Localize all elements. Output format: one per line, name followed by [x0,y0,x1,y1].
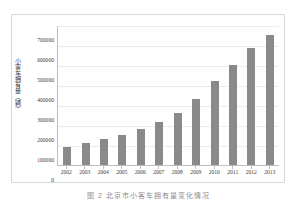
x-axis-tick-labels: 2002200320042005200620072008200920102011… [57,169,279,179]
bar-slot [224,26,242,165]
x-axis-tick-label: 2012 [242,169,261,179]
bar-slot [58,26,76,165]
y-axis-tick-label: 100000 [37,157,54,163]
bar[interactable] [174,113,182,165]
y-axis-tick-label: 400000 [37,97,54,103]
y-axis-tick-label: 500000 [37,77,54,83]
x-axis-tick-label: 2005 [113,169,132,179]
x-axis-tick-label: 2009 [187,169,206,179]
bar[interactable] [192,99,200,165]
bar-slot [169,26,187,165]
bar-slot [242,26,260,165]
bar[interactable] [266,35,274,165]
bar-slot [150,26,168,165]
bar[interactable] [137,129,145,165]
x-axis-tick-label: 2004 [94,169,113,179]
y-axis-tick-label: 700000 [37,37,54,43]
x-axis-tick-label: 2003 [76,169,95,179]
y-axis-tick-labels: 0100000200000300000400000500000600000700… [24,14,56,183]
bar[interactable] [155,122,163,165]
bar-slot [261,26,279,165]
y-axis-tick-label: 600000 [37,57,54,63]
y-axis-tick-label: 200000 [37,137,54,143]
bar[interactable] [63,147,71,165]
bar[interactable] [229,65,237,165]
x-axis-tick-label: 2013 [261,169,280,179]
figure-caption: 图 2 北京市小客车拥有量变化情况 [0,190,297,200]
x-axis-tick-label: 2008 [168,169,187,179]
bar[interactable] [118,135,126,165]
bar[interactable] [247,48,255,165]
bar[interactable] [82,143,90,165]
bar-slot [95,26,113,165]
x-axis-tick-label: 2006 [131,169,150,179]
y-axis-tick-label: 300000 [37,117,54,123]
bar-series [58,26,279,165]
plot-area [57,26,279,166]
bar-slot [187,26,205,165]
bar[interactable] [100,139,108,165]
y-axis-tick-label: 0 [51,177,54,183]
bar-slot [76,26,94,165]
x-axis-tick-label: 2010 [205,169,224,179]
y-axis-title: 小客车拥有量（辆） [12,46,24,124]
bar[interactable] [211,81,219,165]
figure-container: 小客车拥有量（辆） 010000020000030000040000050000… [0,0,297,200]
y-axis-title-text: 小客车拥有量（辆） [15,58,22,112]
bar-slot [205,26,223,165]
x-axis-tick-label: 2011 [224,169,243,179]
x-axis-tick-label: 2007 [150,169,169,179]
bar-slot [132,26,150,165]
x-axis-tick-label: 2002 [57,169,76,179]
bar-slot [113,26,131,165]
